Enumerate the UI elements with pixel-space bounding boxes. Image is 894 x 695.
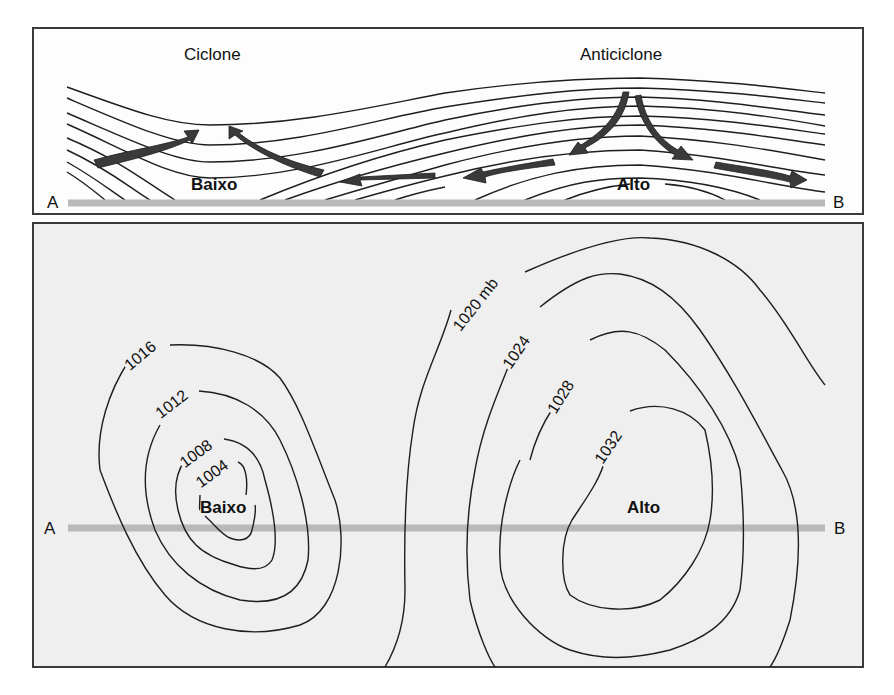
high-pressure-label-bottom: Alto — [627, 498, 660, 518]
isobar-map-drawing — [0, 0, 894, 695]
isobar-1012 — [145, 391, 308, 602]
low-pressure-label-bottom: Baixo — [200, 498, 246, 518]
endpoint-b-bottom: B — [834, 519, 845, 539]
low-pressure-isobars — [99, 345, 341, 632]
endpoint-a-bottom: A — [44, 519, 55, 539]
isobar-1016 — [99, 345, 341, 632]
